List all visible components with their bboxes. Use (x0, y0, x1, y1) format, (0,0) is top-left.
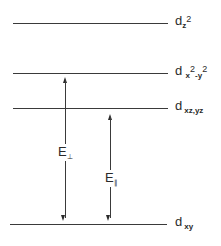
level-label-dz2: dz2 (175, 15, 191, 29)
arrow-down-icon (61, 215, 65, 221)
level-line-dxy (10, 224, 167, 225)
level-line-dz2 (13, 23, 168, 24)
level-line-dx2-y2 (13, 73, 168, 74)
level-label-dxz-yz: dxz,yz (175, 100, 203, 114)
energy-label-e-perp: E⊥ (58, 144, 73, 161)
arrow-down-icon (106, 215, 110, 221)
level-label-dx2-y2: d x2-y2 (175, 65, 207, 79)
energy-level-diagram: dz2 d x2-y2 dxz,yz dxy E⊥ E∥ (0, 0, 221, 246)
energy-label-e-parallel: E∥ (105, 170, 118, 187)
level-label-dxy: dxy (175, 216, 193, 230)
arrow-shaft-e-parallel (110, 117, 111, 218)
level-line-dxz-yz (13, 108, 168, 109)
